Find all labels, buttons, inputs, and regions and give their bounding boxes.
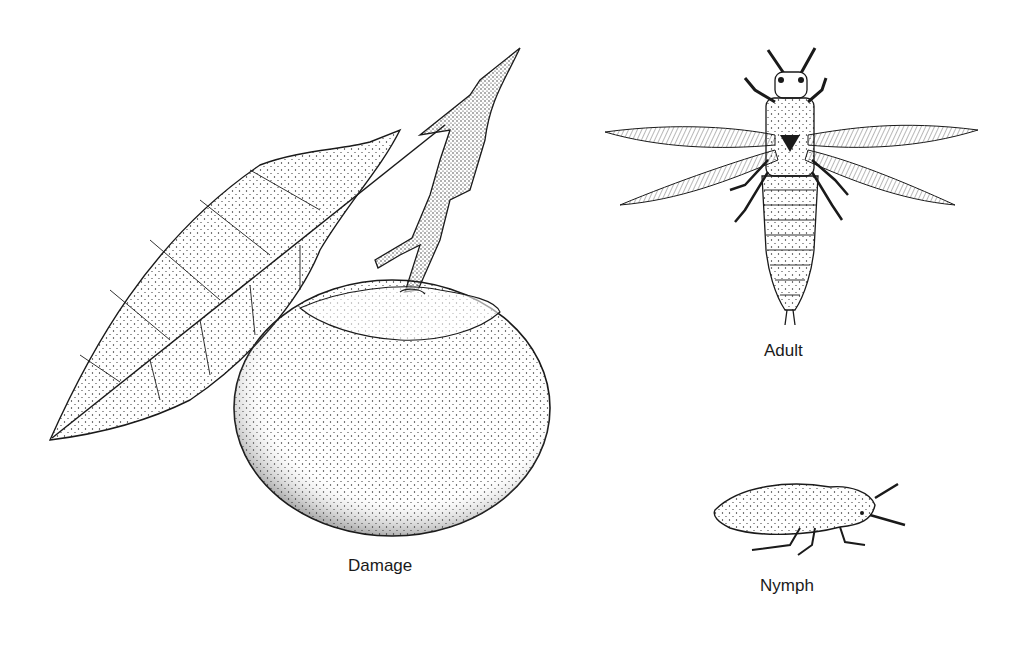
damage-label: Damage [348,556,412,576]
stem-drawing [375,48,520,292]
fruit-drawing [234,280,550,536]
nymph-thrips-drawing [714,484,905,555]
nymph-label: Nymph [760,576,814,596]
adult-thrips-drawing [605,48,978,325]
adult-label: Adult [764,341,803,361]
illustration-canvas [0,0,1033,648]
